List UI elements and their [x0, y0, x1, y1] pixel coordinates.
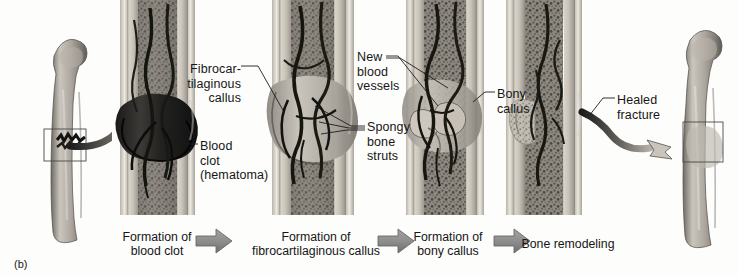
panel-bony-callus — [400, 0, 492, 215]
callout-blood-clot: Blood clot (hematoma) — [200, 139, 290, 183]
panel-fibrocartilaginous-callus — [266, 0, 362, 215]
stage-caption-4: Bone remodeling — [508, 237, 628, 251]
callout-new-blood-vessels: New blood vessels — [357, 50, 427, 94]
stage-caption-3: Formation of bony callus — [400, 230, 496, 258]
callout-healed-fracture: Healed fracture — [617, 93, 687, 122]
callout-bony-callus: Bony callus — [497, 87, 559, 116]
figure-canvas: Fibrocar- tilaginous callus Blood clot (… — [0, 0, 739, 277]
callout-spongy-bone-struts: Spongy bone struts — [367, 120, 437, 164]
panel-hematoma — [112, 0, 204, 215]
callout-fibrocartilaginous-callus: Fibrocar- tilaginous callus — [146, 62, 241, 106]
stage-caption-1: Formation of blood clot — [104, 230, 210, 258]
stage-caption-2: Formation of fibrocartilaginous callus — [238, 230, 394, 258]
figure-label: (b) — [14, 258, 27, 270]
